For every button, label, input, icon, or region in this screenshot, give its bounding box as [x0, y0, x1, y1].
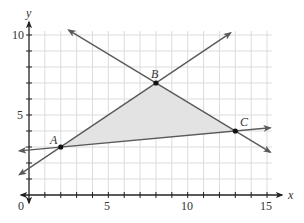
- x-tick-label-10: 10: [181, 199, 193, 213]
- coordinate-plane: y x 0 5 10 15 5 10 A B C: [0, 0, 304, 223]
- y-tick-label-10: 10: [12, 28, 24, 42]
- x-axis-label: x: [287, 188, 294, 202]
- y-axis-label: y: [25, 6, 32, 20]
- point-label-a: A: [49, 133, 58, 147]
- x-tick-label-5: 5: [104, 199, 110, 213]
- point-a: [58, 144, 63, 149]
- line-ab: [19, 33, 230, 175]
- point-label-b: B: [151, 67, 159, 81]
- point-c: [233, 128, 238, 133]
- x-tick-label-15: 15: [260, 199, 272, 213]
- y-tick-label-5: 5: [17, 108, 23, 122]
- point-label-c: C: [240, 115, 249, 129]
- graph-svg: y x 0 5 10 15 5 10 A B C: [0, 0, 304, 223]
- point-b: [153, 80, 158, 85]
- origin-label: 0: [18, 199, 24, 213]
